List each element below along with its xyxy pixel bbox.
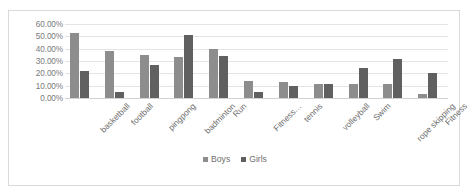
x-axis-tick-label: volleyball <box>340 101 371 132</box>
bar-group <box>204 24 239 98</box>
bar-girls[interactable] <box>289 86 298 98</box>
bar-girls[interactable] <box>393 59 402 98</box>
bar-girls[interactable] <box>184 35 193 98</box>
bar-group <box>100 24 135 98</box>
bar-girls[interactable] <box>254 92 263 98</box>
y-axis-tick-label: 50.00% <box>36 32 63 41</box>
bar-girls[interactable] <box>324 84 333 98</box>
y-axis-tick-label: 10.00% <box>36 81 63 90</box>
bar-boys[interactable] <box>140 55 149 98</box>
x-axis-tick-label: Swim <box>371 101 393 123</box>
bar-boys[interactable] <box>105 51 114 98</box>
bar-girls[interactable] <box>219 56 228 98</box>
bar-boys[interactable] <box>279 82 288 98</box>
y-axis-tick-label: 20.00% <box>36 69 63 78</box>
bar-girls[interactable] <box>115 92 124 98</box>
bar-boys[interactable] <box>418 94 427 98</box>
bar-boys[interactable] <box>209 49 218 98</box>
x-axis-tick-label: basketball <box>98 101 132 135</box>
legend-label: Girls <box>249 154 267 164</box>
y-axis: 60.00%50.00%40.00%30.00%20.00%10.00%0.00… <box>15 24 63 98</box>
bar-group <box>344 24 379 98</box>
bar-group <box>378 24 413 98</box>
bar-group <box>239 24 274 98</box>
bar-girls[interactable] <box>150 65 159 98</box>
y-axis-tick-label: 30.00% <box>36 57 63 66</box>
legend-swatch-icon <box>203 157 208 162</box>
bar-group <box>274 24 309 98</box>
bar-boys[interactable] <box>314 84 323 98</box>
x-axis-tick-label: Fitness… <box>271 101 303 133</box>
chart-container: 60.00%50.00%40.00%30.00%20.00%10.00%0.00… <box>8 10 460 186</box>
x-axis-tick-label: football <box>129 101 155 127</box>
legend-item-girls[interactable]: Girls <box>241 154 267 164</box>
bar-group <box>413 24 448 98</box>
x-axis-tick-label: pingpong <box>166 101 197 132</box>
bar-group <box>135 24 170 98</box>
bar-girls[interactable] <box>428 73 437 98</box>
bar-boys[interactable] <box>70 33 79 98</box>
bar-boys[interactable] <box>383 84 392 98</box>
bar-girls[interactable] <box>80 71 89 98</box>
chart-legend: BoysGirls <box>9 154 461 164</box>
bar-boys[interactable] <box>349 84 358 98</box>
x-axis-tick-label: badminton <box>202 101 237 136</box>
bar-group <box>169 24 204 98</box>
x-axis-tick-label: tennis <box>302 101 325 124</box>
bars-layer <box>65 24 448 98</box>
bar-group <box>309 24 344 98</box>
y-axis-tick-label: 0.00% <box>40 94 63 103</box>
x-axis: basketballfootballpingpongbadmintonRunFi… <box>65 99 448 151</box>
bar-boys[interactable] <box>244 81 253 98</box>
bar-girls[interactable] <box>359 68 368 98</box>
legend-label: Boys <box>211 154 230 164</box>
bar-group <box>65 24 100 98</box>
y-axis-tick-label: 40.00% <box>36 44 63 53</box>
bar-boys[interactable] <box>174 57 183 98</box>
legend-swatch-icon <box>241 157 246 162</box>
y-axis-tick-label: 60.00% <box>36 20 63 29</box>
legend-item-boys[interactable]: Boys <box>203 154 230 164</box>
